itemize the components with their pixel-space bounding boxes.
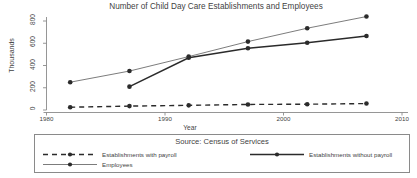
- series-0: [68, 101, 369, 109]
- data-point: [364, 101, 369, 106]
- chart-container: Number of Child Day Care Establishments …: [0, 0, 417, 178]
- series-line: [70, 104, 366, 108]
- data-point: [68, 105, 73, 110]
- legend-key-dashed-icon: [43, 150, 97, 159]
- data-point: [305, 102, 310, 107]
- legend-item-label: Employees: [102, 160, 133, 169]
- data-point: [127, 84, 132, 89]
- data-point: [246, 46, 251, 51]
- data-point: [364, 34, 369, 39]
- legend-item-label: Establishments with payroll: [102, 150, 177, 159]
- series-line: [70, 17, 366, 83]
- data-point: [68, 80, 73, 85]
- series-2: [68, 14, 369, 84]
- legend-item-establishments-with-payroll[interactable]: Establishments with payroll: [43, 150, 177, 159]
- data-point: [246, 39, 251, 44]
- legend-source-label: Source: Census of Services: [35, 137, 409, 146]
- legend-key-solid-thick-icon: [250, 150, 304, 159]
- legend-item-establishments-without-payroll[interactable]: Establishments without payroll: [250, 150, 392, 159]
- legend: Source: Census of Services Establishment…: [34, 134, 410, 173]
- data-point: [246, 102, 251, 107]
- data-point: [305, 26, 310, 31]
- data-point: [127, 104, 132, 109]
- legend-key-solid-thin-icon: [43, 160, 97, 169]
- data-point: [127, 69, 132, 74]
- data-point: [186, 103, 191, 108]
- data-point: [364, 14, 369, 19]
- data-point: [305, 40, 310, 45]
- legend-item-label: Establishments without payroll: [309, 150, 392, 159]
- data-point: [186, 54, 191, 59]
- legend-item-employees[interactable]: Employees: [43, 160, 133, 169]
